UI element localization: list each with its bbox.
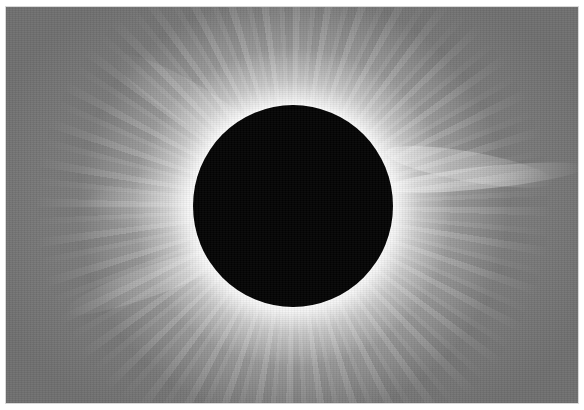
film-grain [6,7,578,403]
eclipse-photo: Total solar eclipse corona [6,7,578,403]
